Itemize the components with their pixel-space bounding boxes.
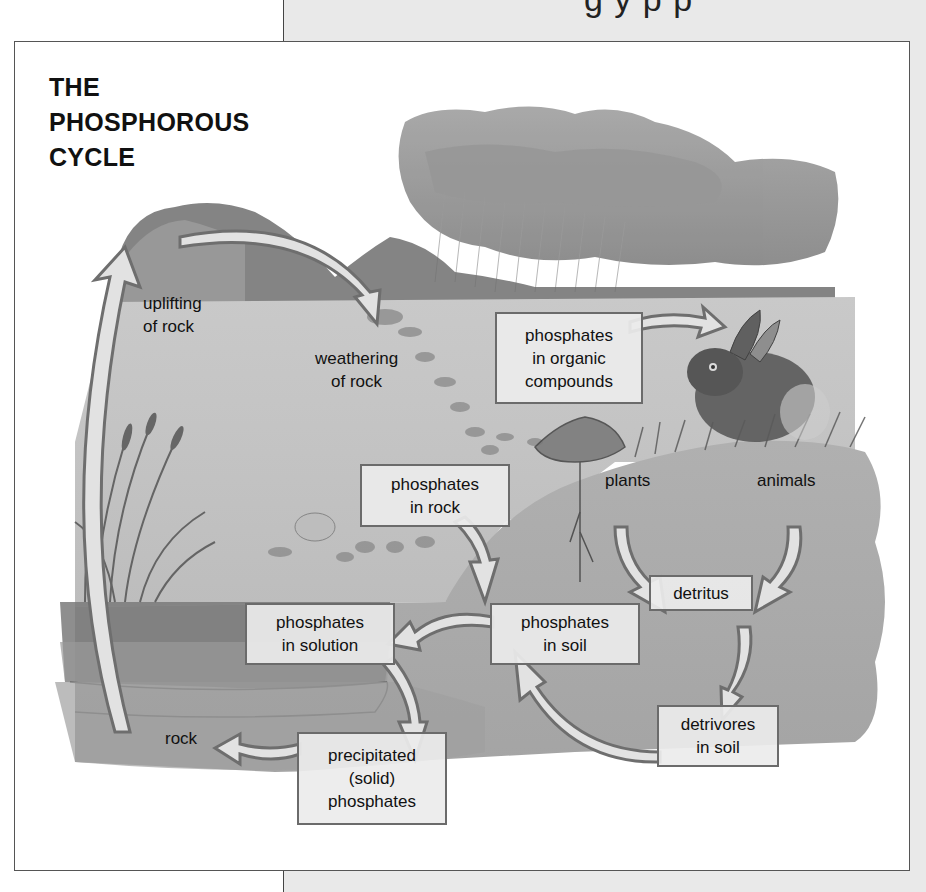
box-phosphates-in-solution: phosphates in solution bbox=[245, 603, 395, 665]
phosphorus-cycle-figure: THE PHOSPHOROUS CYCLE uplifting of rock … bbox=[14, 41, 910, 871]
cropped-header-text: g y p p bbox=[584, 0, 693, 19]
label-uplifting-of-rock: uplifting of rock bbox=[143, 292, 202, 338]
diagram-title: THE PHOSPHOROUS CYCLE bbox=[49, 70, 250, 175]
label-plants: plants bbox=[605, 469, 650, 492]
rain-clouds bbox=[399, 106, 839, 292]
box-precipitated-solid-phosphates: precipitated (solid) phosphates bbox=[297, 732, 447, 825]
label-rock: rock bbox=[165, 727, 197, 750]
label-animals: animals bbox=[757, 469, 816, 492]
box-phosphates-in-soil: phosphates in soil bbox=[490, 603, 640, 665]
box-detrivores-in-soil: detrivores in soil bbox=[657, 705, 779, 767]
box-detritus: detritus bbox=[649, 575, 753, 611]
label-weathering-of-rock: weathering of rock bbox=[315, 347, 398, 393]
box-phosphates-in-rock: phosphates in rock bbox=[360, 464, 510, 527]
box-phosphates-in-organic-compounds: phosphates in organic compounds bbox=[495, 312, 643, 404]
